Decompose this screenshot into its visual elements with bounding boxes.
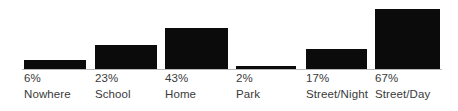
tick-label-park: Park	[236, 86, 260, 102]
tick-label-nowhere: Nowhere	[24, 86, 71, 102]
tick-group-street-day: 67% Street/Day	[375, 70, 430, 102]
tick-value-home: 43%	[165, 70, 196, 86]
tick-label-street-day: Street/Day	[375, 86, 430, 102]
tick-label-street-night: Street/Night	[306, 86, 368, 102]
tick-group-home: 43% Home	[165, 70, 196, 102]
tick-value-street-night: 17%	[306, 70, 368, 86]
tick-value-park: 2%	[236, 70, 260, 86]
tick-group-nowhere: 6% Nowhere	[24, 70, 71, 102]
tick-label-home: Home	[165, 86, 196, 102]
plot-area	[0, 0, 458, 70]
bar-school	[95, 45, 157, 70]
tick-label-school: School	[95, 86, 131, 102]
bar-home	[165, 28, 228, 70]
bar-chart: 6% Nowhere 23% School 43% Home 2% Park 1…	[0, 0, 458, 111]
axis-label-row: 6% Nowhere 23% School 43% Home 2% Park 1…	[0, 70, 458, 111]
tick-value-school: 23%	[95, 70, 131, 86]
tick-value-nowhere: 6%	[24, 70, 71, 86]
tick-group-street-night: 17% Street/Night	[306, 70, 368, 102]
tick-value-street-day: 67%	[375, 70, 430, 86]
bar-street-night	[306, 49, 367, 70]
bar-street-day	[375, 9, 440, 70]
tick-group-park: 2% Park	[236, 70, 260, 102]
tick-group-school: 23% School	[95, 70, 131, 102]
